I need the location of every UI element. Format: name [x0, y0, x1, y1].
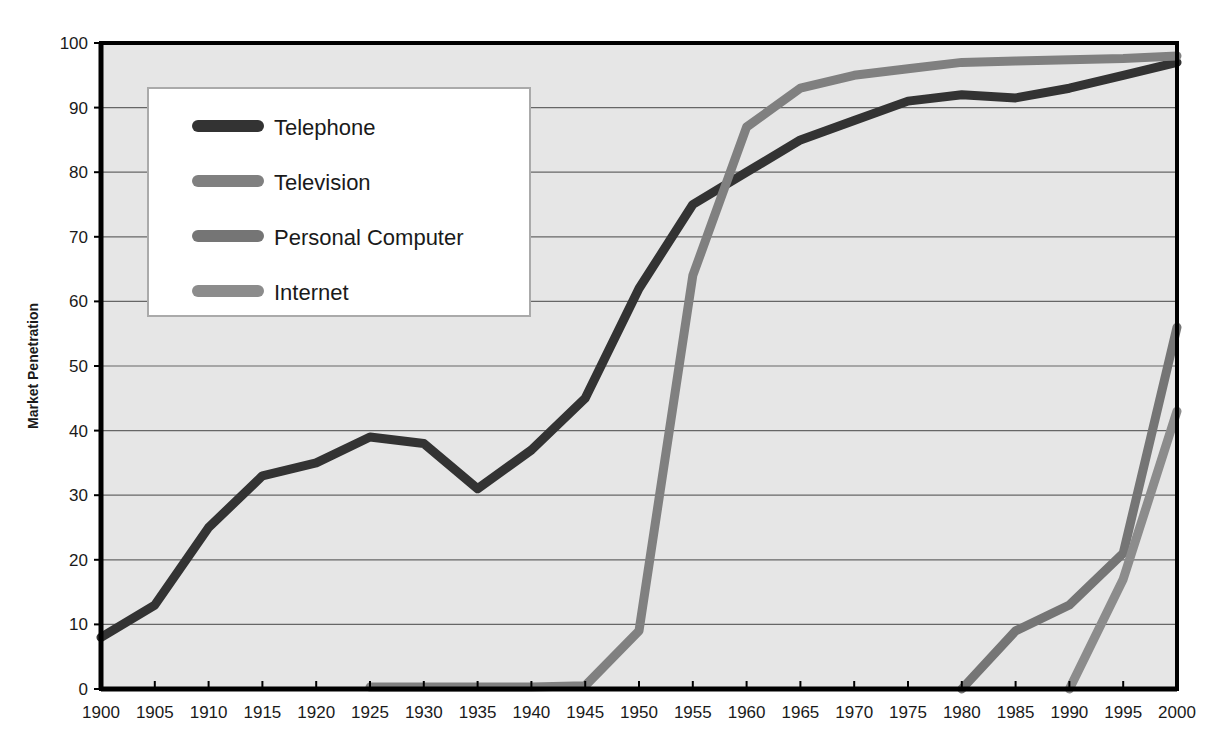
x-tick-label: 1910	[190, 703, 228, 722]
x-tick-label: 1995	[1104, 703, 1142, 722]
x-tick-label: 1935	[459, 703, 497, 722]
x-tick-label: 2000	[1158, 703, 1196, 722]
y-tick-label: 40	[69, 422, 88, 441]
y-tick-label: 80	[69, 163, 88, 182]
market-penetration-chart: 0102030405060708090100 19001905191019151…	[0, 0, 1223, 745]
chart-canvas: 0102030405060708090100 19001905191019151…	[0, 0, 1223, 745]
x-tick-label: 1950	[620, 703, 658, 722]
y-tick-label: 50	[69, 357, 88, 376]
legend-label-personal-computer: Personal Computer	[274, 225, 464, 250]
x-tick-label: 1990	[1050, 703, 1088, 722]
x-tick-label: 1945	[566, 703, 604, 722]
y-tick-label: 90	[69, 99, 88, 118]
scan-artifact-strip	[0, 0, 1223, 24]
x-tick-label: 1965	[781, 703, 819, 722]
x-tick-label: 1985	[997, 703, 1035, 722]
legend-label-telephone: Telephone	[274, 115, 376, 140]
x-tick-label: 1915	[243, 703, 281, 722]
x-tick-label: 1955	[674, 703, 712, 722]
y-tick-label: 20	[69, 551, 88, 570]
y-axis-label-text: Market Penetration	[25, 303, 41, 429]
x-tick-label: 1940	[512, 703, 550, 722]
legend-label-internet: Internet	[274, 280, 349, 305]
x-tick-label: 1970	[835, 703, 873, 722]
y-tick-label: 0	[79, 680, 88, 699]
y-tick-label: 60	[69, 292, 88, 311]
y-tick-label: 70	[69, 228, 88, 247]
x-tick-label: 1975	[889, 703, 927, 722]
x-tick-label: 1900	[82, 703, 120, 722]
x-tick-label: 1920	[297, 703, 335, 722]
x-tick-label: 1960	[728, 703, 766, 722]
legend-label-television: Television	[274, 170, 371, 195]
x-tick-label: 1905	[136, 703, 174, 722]
x-tick-label: 1930	[405, 703, 443, 722]
y-tick-label: 30	[69, 486, 88, 505]
y-tick-label: 10	[69, 615, 88, 634]
y-tick-label: 100	[60, 34, 88, 53]
x-axis-tick-labels: 1900190519101915192019251930193519401945…	[82, 703, 1196, 722]
y-axis-title: Market Penetration	[25, 303, 41, 429]
x-tick-label: 1925	[351, 703, 389, 722]
chart-legend: TelephoneTelevisionPersonal ComputerInte…	[148, 88, 530, 316]
x-tick-label: 1980	[943, 703, 981, 722]
